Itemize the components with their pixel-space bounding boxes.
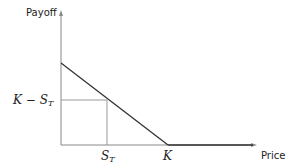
put-payoff-diagram: Payoff Price K − ST ST K: [0, 0, 296, 168]
x-axis-label: Price: [261, 150, 285, 161]
payoff-line: [61, 63, 253, 145]
strike-price-label: K: [162, 149, 173, 163]
spot-price-label: ST: [101, 149, 115, 164]
payoff-level-label: K − ST: [12, 93, 54, 108]
y-axis-arrow-icon: [59, 10, 63, 16]
y-axis-label: Payoff: [26, 7, 58, 18]
guide-lines: [61, 100, 107, 145]
y-axis: [59, 10, 63, 145]
